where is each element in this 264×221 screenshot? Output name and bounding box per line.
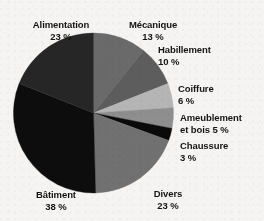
slice-label-ameublement-name: Ameublement [180,112,264,124]
slice-label-alimentation-value: 23 % [13,31,109,43]
slice-label-batiment: Bâtiment 38 % [14,189,98,212]
slice-label-divers-value: 23 % [133,200,203,212]
slice-label-mecanique-value: 13 % [114,31,192,43]
slice-label-mecanique: Mécanique 13 % [114,19,192,42]
slice-label-chaussure-name: Chaussure [180,140,252,152]
slice-label-chaussure: Chaussure 3 % [180,140,252,163]
slice-label-chaussure-value: 3 % [180,152,252,164]
slice-label-habillement: Habillement 10 % [158,44,262,67]
slice-label-alimentation: Alimentation 23 % [13,19,109,42]
slice-label-divers-name: Divers [133,188,203,200]
slice-label-mecanique-name: Mécanique [114,19,192,31]
slice-label-batiment-value: 38 % [14,201,98,213]
slice-label-habillement-value: 10 % [158,56,262,68]
slice-label-alimentation-name: Alimentation [13,19,109,31]
slice-label-ameublement-et-bois: Ameublement et bois 5 % [180,112,264,135]
pie-slice-group [13,33,173,193]
slice-label-habillement-name: Habillement [158,44,262,56]
slice-label-coiffure-value: 6 % [178,95,250,107]
slice-label-divers: Divers 23 % [133,188,203,211]
slice-label-batiment-name: Bâtiment [14,189,98,201]
slice-label-coiffure-name: Coiffure [178,83,250,95]
slice-label-ameublement-value: et bois 5 % [180,124,264,136]
slice-label-coiffure: Coiffure 6 % [178,83,250,106]
pie-chart: Alimentation 23 % Mécanique 13 % Habille… [0,0,264,221]
